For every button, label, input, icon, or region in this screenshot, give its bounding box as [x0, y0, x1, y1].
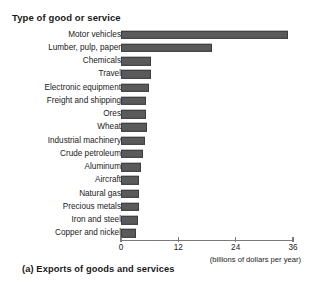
bar-category-label: Crude petroleum — [60, 150, 121, 158]
bar-track — [121, 81, 307, 94]
plot-area: Motor vehiclesLumber, pulp, paperChemica… — [0, 28, 313, 240]
figure-caption: (a) Exports of goods and services — [22, 264, 175, 274]
bar — [121, 83, 149, 91]
bar-track — [121, 55, 307, 68]
x-axis-tick — [120, 237, 121, 242]
bar-row: Wheat — [0, 121, 313, 134]
bar-category-label: Precious metals — [63, 203, 121, 211]
x-axis-tick-label: 24 — [231, 243, 240, 252]
bar-category-label: Lumber, pulp, paper — [48, 44, 121, 52]
bar-category-label: Iron and steel — [71, 216, 121, 224]
bar-track — [121, 161, 307, 174]
bar — [121, 150, 143, 158]
bar-row: Crude petroleum — [0, 147, 313, 160]
bar-category-label: Travel — [99, 70, 121, 78]
bar-category-label: Industrial machinery — [48, 137, 121, 145]
x-axis-tick — [178, 237, 179, 242]
bar-track — [121, 41, 307, 54]
x-axis-tick — [292, 237, 293, 242]
bar-category-label: Motor vehicles — [68, 31, 121, 39]
bar-category-label: Ores — [103, 110, 121, 118]
bar-row: Ores — [0, 108, 313, 121]
bar-category-label: Aircraft — [95, 176, 121, 184]
bar-track — [121, 214, 307, 227]
bar — [121, 163, 141, 171]
bar-category-label: Wheat — [97, 123, 121, 131]
bar — [121, 203, 139, 211]
bar — [121, 216, 138, 224]
bar-row: Copper and nickel — [0, 227, 313, 240]
bar-track — [121, 68, 307, 81]
bar-track — [121, 227, 307, 240]
bar — [121, 189, 139, 197]
x-axis-tick — [235, 237, 236, 242]
x-axis-tick-label: 0 — [119, 243, 124, 252]
bar-track — [121, 94, 307, 107]
bar-category-label: Natural gas — [79, 190, 121, 198]
bar-track — [121, 200, 307, 213]
x-axis-tick-label: 12 — [174, 243, 183, 252]
bar — [121, 110, 146, 118]
bar-row: Natural gas — [0, 187, 313, 200]
bar — [121, 30, 288, 38]
bar-track — [121, 174, 307, 187]
bar — [121, 229, 136, 237]
bar — [121, 136, 145, 144]
bar-category-label: Chemicals — [83, 57, 121, 65]
bar-category-label: Electronic equipment — [45, 84, 121, 92]
bar-track — [121, 28, 307, 41]
bar-row: Lumber, pulp, paper — [0, 41, 313, 54]
bar-category-label: Copper and nickel — [55, 229, 121, 237]
x-axis-units-label: (billions of dollars per year) — [210, 255, 301, 264]
bar-row: Industrial machinery — [0, 134, 313, 147]
bar-row: Motor vehicles — [0, 28, 313, 41]
bar-track — [121, 147, 307, 160]
x-axis-line — [121, 240, 293, 241]
bar-row: Iron and steel — [0, 214, 313, 227]
bar-track — [121, 134, 307, 147]
bar-track — [121, 187, 307, 200]
bar-row: Precious metals — [0, 200, 313, 213]
bar-track — [121, 121, 307, 134]
bar — [121, 97, 146, 105]
bar-row: Chemicals — [0, 55, 313, 68]
bar-row: Aluminum — [0, 161, 313, 174]
bar — [121, 44, 212, 52]
bar-category-label: Aluminum — [85, 163, 121, 171]
bar — [121, 123, 147, 131]
bar — [121, 70, 151, 78]
bar-category-label: Freight and shipping — [47, 97, 121, 105]
bar — [121, 57, 151, 65]
x-axis-tick-label: 36 — [288, 243, 297, 252]
bar-row: Freight and shipping — [0, 94, 313, 107]
bar-row: Travel — [0, 68, 313, 81]
bar-track — [121, 108, 307, 121]
bar-row: Aircraft — [0, 174, 313, 187]
bar — [121, 176, 139, 184]
bar-chart-figure: Type of good or service Motor vehiclesLu… — [0, 0, 313, 287]
bar-row: Electronic equipment — [0, 81, 313, 94]
chart-axis-title: Type of good or service — [12, 12, 121, 23]
